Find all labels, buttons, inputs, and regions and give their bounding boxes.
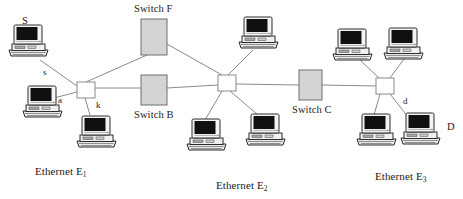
link-hub2-pcright — [230, 91, 258, 115]
pc-e3-botl-icon[interactable] — [357, 114, 396, 145]
ethernet-e1-label: Ethernet E1 — [35, 166, 87, 177]
pc-e2-left-icon[interactable] — [187, 119, 226, 150]
pc-k-icon[interactable] — [77, 116, 116, 147]
switch-b-shape[interactable] — [141, 75, 167, 105]
switch-c-label: Switch C — [292, 105, 332, 116]
link-hub3-pctopl — [360, 60, 379, 78]
label-s-link: s — [43, 68, 47, 77]
ethernet-e1-subscript: 1 — [83, 170, 87, 179]
hub-e1-shape[interactable] — [77, 82, 95, 98]
switch-c-shape[interactable] — [299, 70, 322, 100]
label-S-upper: S — [22, 16, 28, 27]
hub-e2-shape[interactable] — [218, 75, 236, 91]
link-switchb-hub2 — [167, 85, 218, 88]
label-a-link: a — [58, 96, 62, 105]
ethernet-e2-prefix: Ethernet E — [216, 179, 264, 191]
link-hub1-switchf — [86, 55, 147, 82]
hub-e3-shape[interactable] — [376, 78, 394, 94]
link-hub3-pctopr — [390, 59, 404, 78]
label-d-link: d — [403, 97, 408, 106]
switch-f-shape[interactable] — [141, 19, 167, 55]
link-switchc-hub3 — [322, 85, 376, 86]
ethernet-e2-label: Ethernet E2 — [216, 180, 268, 191]
ethernet-e2-subscript: 2 — [264, 184, 268, 193]
pc-e3-topl-icon[interactable] — [333, 29, 372, 60]
ethernet-e3-subscript: 3 — [423, 175, 427, 184]
pc-d-icon[interactable] — [401, 113, 440, 144]
label-D-node: D — [447, 122, 455, 133]
network-diagram: Switch FSwitch BSwitch CSsakdDEthernet E… — [0, 0, 463, 199]
switch-f-label: Switch F — [134, 4, 172, 15]
link-k-hub1 — [85, 98, 90, 115]
pc-e2-top-icon[interactable] — [239, 17, 278, 48]
link-hub3-pcbotl — [374, 94, 380, 115]
link-hub2-pcleft — [205, 91, 222, 120]
pc-a-icon[interactable] — [23, 86, 62, 117]
ethernet-e3-label: Ethernet E3 — [375, 171, 427, 182]
pc-e3-topr-icon[interactable] — [384, 28, 423, 59]
switch-b-label: Switch B — [134, 110, 174, 121]
hub-shapes-group — [77, 75, 394, 98]
pc-s-upper-icon[interactable] — [9, 25, 48, 56]
label-k-link: k — [96, 101, 101, 110]
ethernet-e1-prefix: Ethernet E — [35, 165, 83, 177]
link-switchf-hub2 — [167, 44, 222, 75]
ethernet-e3-prefix: Ethernet E — [375, 170, 423, 182]
link-hub2-switchc — [236, 84, 299, 85]
link-hub2-pctop — [228, 50, 253, 75]
pc-e2-right-icon[interactable] — [246, 114, 285, 145]
